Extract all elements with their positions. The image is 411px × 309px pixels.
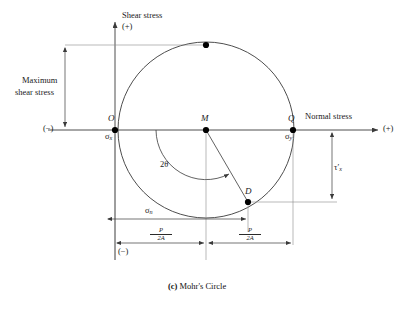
figure-caption-tag: (c) (168, 281, 177, 291)
tau-dimension (248, 133, 337, 202)
shear-stress-label-line1: Shear stress (122, 10, 162, 20)
max-shear-stress-label-line1: Maximum (22, 76, 57, 86)
dimension-right-denominator: 2A (239, 234, 261, 242)
extension-lines (115, 130, 293, 260)
point-O-label: O (108, 113, 115, 123)
dimension-right-numerator: P (239, 227, 261, 234)
sigma-n-label: σn (145, 206, 153, 216)
dimension-left-fraction: P 2A (150, 227, 172, 242)
radius-line-md (206, 130, 248, 202)
point-M-label: M (201, 113, 209, 123)
dimension-left-numerator: P (150, 227, 172, 234)
point-O-marker (112, 127, 118, 133)
point-Q-label: Q (288, 113, 295, 123)
figure-caption-text: Mohr's Circle (180, 281, 227, 291)
normal-stress-negative-sign: (−) (43, 124, 53, 134)
normal-stress-axis-label: Normal stress (305, 112, 352, 122)
max-shear-dimension (65, 45, 206, 127)
point-Q-sigma-label: σy (285, 132, 292, 142)
point-O-sigma-label: σx (105, 132, 112, 142)
tau-prime-x-label: τ′x (334, 163, 342, 173)
max-shear-stress-label-line2: shear stress (15, 88, 54, 98)
angle-2theta-label: 2θ (160, 160, 168, 170)
figure-caption: (c) Mohr's Circle (168, 281, 226, 291)
angle-2theta-arc (156, 130, 229, 180)
mohrs-circle-drawing (0, 0, 411, 309)
point-D-label: D (245, 186, 252, 196)
dimension-left-denominator: 2A (150, 234, 172, 242)
mohrs-circle-figure: Shear stress (+) Normal stress (+) (−) (… (0, 0, 411, 309)
dimension-right-fraction: P 2A (239, 227, 261, 242)
shear-stress-axis-label: Shear stress (122, 11, 162, 21)
shear-stress-positive-sign: (+) (122, 22, 132, 32)
point-M-marker (203, 127, 209, 133)
point-top-marker (203, 42, 209, 48)
shear-stress-negative-sign: (−) (118, 247, 128, 257)
point-D-marker (245, 199, 251, 205)
normal-stress-positive-sign: (+) (383, 124, 393, 134)
point-markers (112, 42, 296, 205)
